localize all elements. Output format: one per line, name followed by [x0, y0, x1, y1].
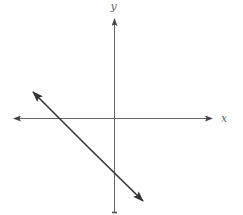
x-axis-label: x — [221, 112, 228, 125]
negative-slope-line — [33, 92, 143, 201]
coordinate-graph: y x — [0, 0, 243, 215]
y-axis — [112, 19, 117, 213]
y-axis-label: y — [110, 0, 118, 13]
